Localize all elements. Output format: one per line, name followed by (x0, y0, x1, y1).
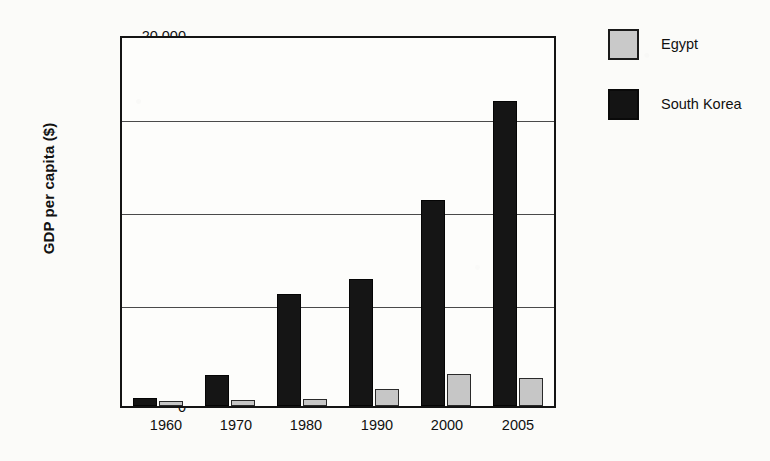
legend-item-south-korea: South Korea (608, 86, 766, 122)
bar-egypt-1970[interactable] (231, 400, 255, 406)
bar-egypt-1980[interactable] (303, 399, 327, 406)
chart-legend: Egypt South Korea (608, 26, 766, 146)
bar-group-1970 (205, 38, 255, 406)
x-tick-label-1970: 1970 (196, 417, 276, 433)
bar-south-korea-1960[interactable] (133, 398, 157, 406)
bar-south-korea-2000[interactable] (421, 200, 445, 406)
bar-south-korea-1970[interactable] (205, 375, 229, 406)
bar-egypt-2000[interactable] (447, 374, 471, 406)
bar-south-korea-1990[interactable] (349, 279, 373, 406)
x-tick-label-1960: 1960 (126, 417, 206, 433)
bar-group-2000 (421, 38, 471, 406)
x-tick-label-1980: 1980 (266, 417, 346, 433)
bar-egypt-2005[interactable] (519, 378, 543, 406)
legend-item-egypt: Egypt (608, 26, 766, 62)
bar-south-korea-2005[interactable] (493, 101, 517, 406)
legend-swatch-egypt-icon (608, 29, 639, 60)
bar-group-1990 (349, 38, 399, 406)
y-axis-title: GDP per capita ($) (40, 69, 57, 309)
x-tick-label-1990: 1990 (337, 417, 417, 433)
bars-layer (122, 38, 554, 406)
bar-egypt-1990[interactable] (375, 389, 399, 406)
bar-group-1960 (133, 38, 183, 406)
bar-egypt-1960[interactable] (159, 401, 183, 406)
bar-south-korea-1980[interactable] (277, 294, 301, 406)
legend-swatch-south-korea-icon (608, 89, 639, 120)
legend-label-south-korea: South Korea (661, 96, 742, 112)
legend-label-egypt: Egypt (661, 36, 698, 52)
plot-area (120, 36, 556, 408)
x-tick-label-2005: 2005 (478, 417, 558, 433)
bar-group-1980 (277, 38, 327, 406)
bar-chart: GDP per capita ($) 20,000 15,000 10,000 … (0, 0, 770, 461)
bar-group-2005 (493, 38, 543, 406)
x-tick-label-2000: 2000 (407, 417, 487, 433)
